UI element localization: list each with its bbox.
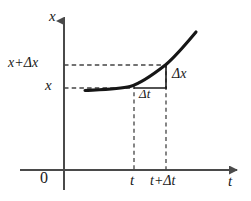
x-tick-label-first: t xyxy=(130,173,134,188)
y-tick-label-lower: x xyxy=(45,78,52,93)
x-axis-label: t xyxy=(228,174,232,189)
delta-t-label: Δt xyxy=(139,87,150,100)
y-axis-label: x xyxy=(49,9,56,24)
trajectory-curve xyxy=(85,32,196,91)
derivative-diagram: x t 0 x+Δx x t t+Δt Δx Δt xyxy=(0,0,251,201)
delta-x-label: Δx xyxy=(172,67,186,81)
x-tick-label-second: t+Δt xyxy=(150,174,175,188)
y-tick-label-upper: x+Δx xyxy=(8,56,38,70)
diagram-canvas xyxy=(0,0,251,201)
origin-label: 0 xyxy=(40,170,48,186)
